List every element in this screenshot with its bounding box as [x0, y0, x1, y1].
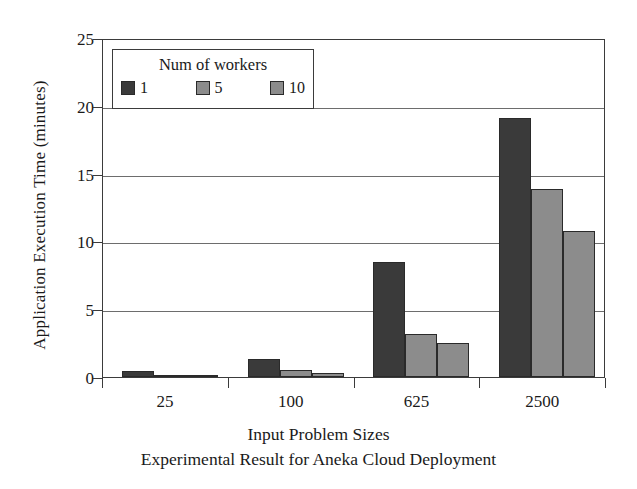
- x-tick-mark: [102, 378, 103, 388]
- y-tick-label: 25: [50, 31, 94, 48]
- bar: [563, 231, 595, 377]
- x-tick-mark: [228, 378, 229, 388]
- y-tick-label: 10: [50, 234, 94, 251]
- y-tick-mark: [93, 378, 102, 379]
- y-tick-label: 20: [50, 99, 94, 116]
- x-tick-label: 2500: [497, 392, 587, 412]
- legend-label: 10: [289, 80, 305, 96]
- legend-swatch-icon: [121, 81, 135, 95]
- bar: [248, 359, 280, 377]
- legend: Num of workers 1510: [112, 49, 314, 109]
- legend-title: Num of workers: [113, 55, 313, 75]
- bar: [280, 370, 312, 377]
- bar: [154, 375, 186, 377]
- chart-figure: Application Execution Time (minutes) 051…: [0, 0, 637, 489]
- legend-item: 1: [121, 80, 148, 96]
- bar: [186, 375, 218, 377]
- bar: [122, 371, 154, 377]
- figure-caption: Experimental Result for Aneka Cloud Depl…: [0, 449, 637, 470]
- bar: [499, 118, 531, 377]
- y-tick-label: 0: [50, 370, 94, 387]
- bar: [405, 334, 437, 377]
- y-tick-mark: [93, 107, 102, 108]
- x-tick-mark: [354, 378, 355, 388]
- bar: [437, 343, 469, 377]
- x-axis-title: Input Problem Sizes: [0, 424, 637, 445]
- y-tick-mark: [93, 175, 102, 176]
- legend-swatch-icon: [196, 81, 210, 95]
- y-tick-label: 5: [50, 302, 94, 319]
- y-tick-label: 15: [50, 167, 94, 184]
- x-tick-label: 100: [246, 392, 336, 412]
- x-tick-label: 25: [120, 392, 210, 412]
- x-tick-label: 625: [371, 392, 461, 412]
- bar: [531, 189, 563, 377]
- legend-item: 10: [270, 80, 305, 96]
- y-tick-mark: [93, 39, 102, 40]
- legend-items: 1510: [121, 80, 305, 96]
- bar-group: [373, 40, 469, 377]
- x-tick-mark: [479, 378, 480, 388]
- legend-label: 5: [215, 80, 223, 96]
- bar: [373, 262, 405, 377]
- legend-swatch-icon: [270, 81, 284, 95]
- bar-group: [499, 40, 595, 377]
- y-axis-title: Application Execution Time (minutes): [30, 35, 50, 395]
- legend-item: 5: [196, 80, 223, 96]
- bar: [312, 373, 344, 377]
- y-tick-mark: [93, 310, 102, 311]
- y-tick-mark: [93, 242, 102, 243]
- legend-label: 1: [140, 80, 148, 96]
- x-tick-mark: [605, 378, 606, 388]
